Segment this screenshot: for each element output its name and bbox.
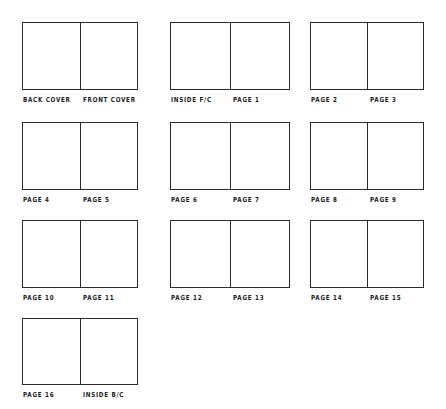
spread-gutter-line <box>80 22 81 90</box>
spread-7[interactable]: PAGE 10PAGE 11 <box>22 220 138 288</box>
right-page-label: PAGE 1 <box>230 90 290 107</box>
spread-gutter-line <box>367 22 368 90</box>
spread-gutter-line <box>367 122 368 190</box>
right-page-label: FRONT COVER <box>80 90 138 107</box>
right-page-label: PAGE 9 <box>367 190 424 207</box>
left-page-label: PAGE 4 <box>22 190 80 207</box>
spread-2[interactable]: INSIDE F/CPAGE 1 <box>170 22 290 90</box>
spread-9[interactable]: PAGE 14PAGE 15 <box>310 220 424 288</box>
spread-gutter-line <box>230 22 231 90</box>
left-page-label: PAGE 6 <box>170 190 230 207</box>
spread-label-row: PAGE 4PAGE 5 <box>22 190 138 204</box>
spread-label-row: PAGE 16INSIDE B/C <box>22 385 138 399</box>
spread-gutter-line <box>367 220 368 288</box>
left-page-label: INSIDE F/C <box>170 90 230 107</box>
spread-label-row: PAGE 10PAGE 11 <box>22 288 138 302</box>
right-page-label: PAGE 3 <box>367 90 424 107</box>
left-page-label: PAGE 12 <box>170 288 230 305</box>
left-page-label: BACK COVER <box>22 90 80 107</box>
spread-label-row: PAGE 14PAGE 15 <box>310 288 424 302</box>
spread-10[interactable]: PAGE 16INSIDE B/C <box>22 318 138 385</box>
spread-gutter-line <box>230 220 231 288</box>
left-page-label: PAGE 2 <box>310 90 367 107</box>
right-page-label: PAGE 5 <box>80 190 138 207</box>
spread-1[interactable]: BACK COVERFRONT COVER <box>22 22 138 90</box>
spread-6[interactable]: PAGE 8PAGE 9 <box>310 122 424 190</box>
right-page-label: PAGE 13 <box>230 288 290 305</box>
left-page-label: PAGE 8 <box>310 190 367 207</box>
spread-label-row: BACK COVERFRONT COVER <box>22 90 138 104</box>
spread-label-row: PAGE 6PAGE 7 <box>170 190 290 204</box>
right-page-label: PAGE 7 <box>230 190 290 207</box>
right-page-label: PAGE 11 <box>80 288 138 305</box>
spread-8[interactable]: PAGE 12PAGE 13 <box>170 220 290 288</box>
right-page-label: INSIDE B/C <box>80 385 138 402</box>
spread-4[interactable]: PAGE 4PAGE 5 <box>22 122 138 190</box>
spread-label-row: INSIDE F/CPAGE 1 <box>170 90 290 104</box>
left-page-label: PAGE 16 <box>22 385 80 402</box>
spread-gutter-line <box>80 122 81 190</box>
storyboard-sheet: BACK COVERFRONT COVERINSIDE F/CPAGE 1PAG… <box>0 0 446 409</box>
spread-label-row: PAGE 2PAGE 3 <box>310 90 424 104</box>
spread-gutter-line <box>80 318 81 385</box>
left-page-label: PAGE 14 <box>310 288 367 305</box>
spread-label-row: PAGE 8PAGE 9 <box>310 190 424 204</box>
right-page-label: PAGE 15 <box>367 288 424 305</box>
spread-5[interactable]: PAGE 6PAGE 7 <box>170 122 290 190</box>
left-page-label: PAGE 10 <box>22 288 80 305</box>
spread-gutter-line <box>230 122 231 190</box>
spread-gutter-line <box>80 220 81 288</box>
spread-3[interactable]: PAGE 2PAGE 3 <box>310 22 424 90</box>
spread-label-row: PAGE 12PAGE 13 <box>170 288 290 302</box>
